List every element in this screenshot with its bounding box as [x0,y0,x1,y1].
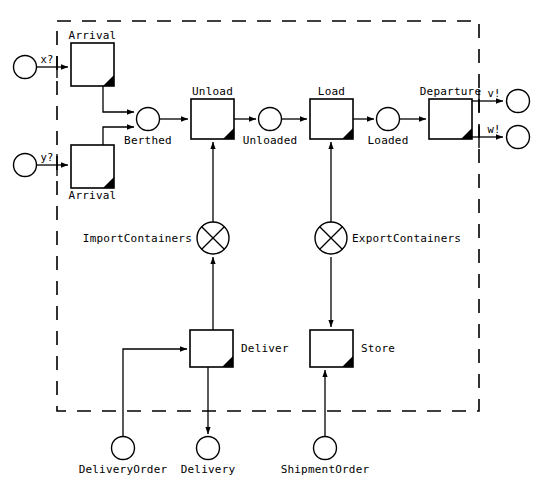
place-delivery-order[interactable] [112,437,135,460]
input-place-x[interactable] [14,56,37,79]
transition-label-load: Load [318,85,345,98]
place-delivery[interactable] [197,437,220,460]
gate-label-import-containers: ImportContainers [83,232,192,245]
transition-departure[interactable] [429,99,472,139]
arc-delivery-order-to-deliver [123,349,187,437]
transition-deliver[interactable] [190,330,233,367]
transition-store[interactable] [310,330,353,367]
transition-label-arrival-top: Arrival [69,29,117,42]
place-label-delivery: Delivery [181,463,236,476]
transition-unload[interactable] [191,99,234,139]
input-port-label-y: y? [40,151,53,163]
place-shipment-order[interactable] [314,437,337,460]
place-loaded[interactable] [377,108,400,131]
place-label-loaded: Loaded [368,134,409,147]
petri-net-canvas: x? Arrival y? Arrival Berthed Unload Unl… [0,0,535,484]
place-berthed[interactable] [137,108,160,131]
transition-load[interactable] [310,99,353,139]
place-label-unloaded: Unloaded [243,134,298,147]
place-label-delivery-order: DeliveryOrder [79,463,168,476]
place-label-shipment-order: ShipmentOrder [281,463,370,476]
output-port-label-w: w! [487,123,500,135]
output-place-w[interactable] [507,126,530,149]
transition-arrival-bottom[interactable] [71,145,114,188]
transition-arrival-top[interactable] [71,43,114,86]
transition-label-departure: Departure [420,85,481,98]
place-label-berthed: Berthed [124,134,172,147]
output-place-v[interactable] [507,90,530,113]
arc-arrival-top-to-berthed [103,86,134,112]
transition-label-arrival-bottom: Arrival [69,189,117,202]
input-place-y[interactable] [14,154,37,177]
gate-label-export-containers: ExportContainers [352,232,461,245]
transition-label-deliver: Deliver [241,342,289,355]
input-port-label-x: x? [40,53,53,65]
petri-net-diagram: x? Arrival y? Arrival Berthed Unload Unl… [0,0,535,484]
place-unloaded[interactable] [259,108,282,131]
transition-label-store: Store [361,342,395,355]
output-port-label-v: v! [487,87,500,99]
transition-label-unload: Unload [192,85,233,98]
